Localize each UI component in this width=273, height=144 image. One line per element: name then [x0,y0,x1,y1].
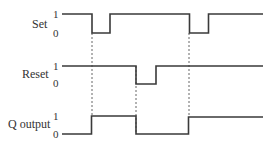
set-level-0: 0 [53,27,59,39]
timing-diagram: Set 1 0 Reset 1 0 Q output 1 0 [0,0,273,144]
set-waveform [62,14,263,33]
reset-level-1: 1 [53,60,59,72]
signal-label-set: Set [32,17,48,31]
q-level-1: 1 [53,110,59,122]
q-level-0: 0 [53,128,59,140]
signal-label-q-output: Q output [8,117,51,131]
reset-level-0: 0 [53,77,59,89]
set-level-1: 1 [53,8,59,20]
q-output-waveform [62,116,263,134]
signal-label-reset: Reset [22,67,49,81]
